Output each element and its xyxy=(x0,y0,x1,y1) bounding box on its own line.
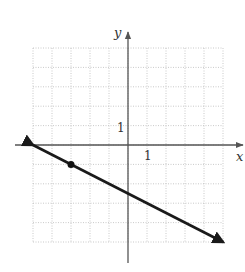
marked-points xyxy=(68,161,75,168)
coordinate-plane: x y 1 1 xyxy=(0,0,245,272)
marked-point xyxy=(68,161,75,168)
y-tick-label: 1 xyxy=(117,121,125,135)
x-axis-label: x xyxy=(236,149,244,164)
x-tick-label: 1 xyxy=(144,149,152,163)
y-axis-label: y xyxy=(113,25,122,40)
